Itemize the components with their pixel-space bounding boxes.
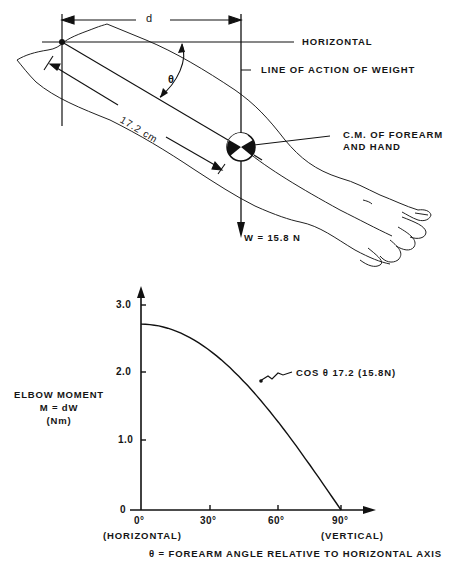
figure-canvas xyxy=(0,0,457,567)
y-axis-arrow xyxy=(137,286,145,298)
y-axis-title-line2: M = dW xyxy=(14,401,104,414)
x-axis-arrow xyxy=(363,506,376,514)
moment-curve xyxy=(141,324,341,510)
horizontal-label: HORIZONTAL xyxy=(302,36,373,47)
x-tick-60: 60° xyxy=(268,515,285,526)
y-axis-title-line3: (Nm) xyxy=(14,414,104,427)
y-axis-title-line1: ELBOW MOMENT xyxy=(14,388,104,401)
theta-label: θ xyxy=(168,73,175,85)
y-axis-title: ELBOW MOMENT M = dW (Nm) xyxy=(14,388,104,427)
x-tick-30: 30° xyxy=(200,515,217,526)
y-tick-3: 3.0 xyxy=(116,299,131,310)
curve-annotation: COS θ 17.2 (15.8N) xyxy=(296,367,396,378)
x-axis-title: θ = FOREARM ANGLE RELATIVE TO HORIZONTAL… xyxy=(149,548,442,559)
cm-leader-line xyxy=(254,136,330,145)
x-tick-0: 0° xyxy=(134,515,145,526)
y-tick-1: 1.0 xyxy=(118,434,133,445)
cm-label-line1: C.M. OF FOREARM xyxy=(343,129,443,140)
y-tick-2: 2.0 xyxy=(116,366,131,377)
line-of-action-label: LINE OF ACTION OF WEIGHT xyxy=(261,64,415,75)
x-sublabel-horizontal: (HORIZONTAL) xyxy=(103,530,182,541)
weight-label: W = 15.8 N xyxy=(244,232,301,243)
center-of-mass-symbol xyxy=(227,133,255,161)
x-sublabel-vertical: (VERTICAL) xyxy=(321,530,384,541)
cm-label-line2: AND HAND xyxy=(343,141,401,152)
annotation-leader xyxy=(260,372,292,381)
d-label: d xyxy=(146,12,153,24)
length-dimension xyxy=(44,56,225,174)
x-tick-90: 90° xyxy=(332,515,349,526)
y-tick-0: 0 xyxy=(120,504,126,515)
moment-chart xyxy=(130,286,376,514)
forearm-axis-line xyxy=(62,42,228,140)
